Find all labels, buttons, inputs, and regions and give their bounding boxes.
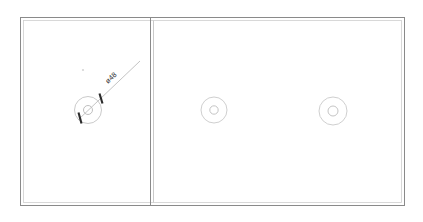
canvas-background — [0, 0, 423, 222]
drawing-viewport: ø48 — [0, 0, 423, 222]
cad-drawing-canvas: ø48 — [0, 0, 423, 222]
reference-dot — [82, 69, 84, 71]
